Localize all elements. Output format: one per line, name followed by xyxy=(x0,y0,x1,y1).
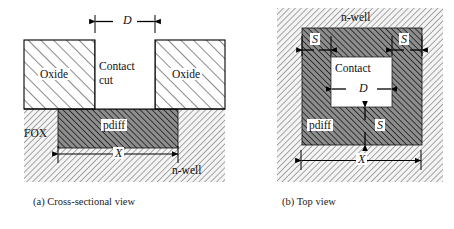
label-oxide-right: Oxide xyxy=(170,68,202,80)
label-fox: FOX xyxy=(24,127,47,139)
label-nwell-a: n-well xyxy=(172,164,201,176)
panel-cross-sectional xyxy=(24,15,225,182)
label-oxide-left: Oxide xyxy=(38,68,70,80)
label-dim-x-a: X xyxy=(113,147,124,159)
label-contact-b: Contact xyxy=(335,62,371,74)
label-dim-d-b: D xyxy=(357,82,370,94)
label-dim-x-b: X xyxy=(356,153,367,165)
caption-panel-a: (a) Cross-sectional view xyxy=(33,196,135,207)
label-nwell-b: n-well xyxy=(341,11,370,23)
label-dim-s-bottom: S xyxy=(375,119,385,131)
label-pdiff-a: pdiff xyxy=(101,119,127,131)
label-dim-s-left: S xyxy=(310,33,320,45)
semiconductor-contact-figure xyxy=(0,0,454,229)
label-dim-d-a: D xyxy=(121,14,134,26)
label-contact-cut-line1: Contact xyxy=(99,60,135,72)
label-contact-cut-line2: cut xyxy=(99,74,113,86)
label-dim-s-right: S xyxy=(399,33,409,45)
label-pdiff-b: pdiff xyxy=(307,119,333,131)
caption-panel-b: (b) Top view xyxy=(282,196,336,207)
